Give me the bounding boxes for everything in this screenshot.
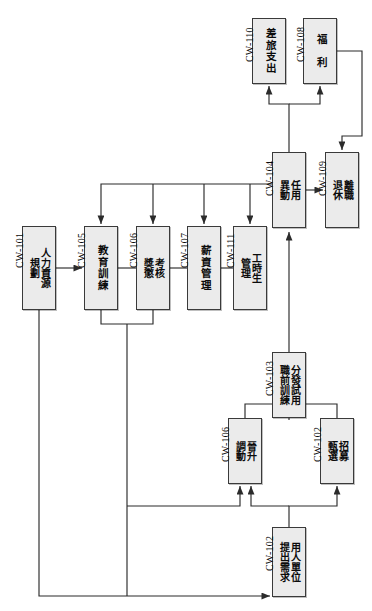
node-id-label: CW-109 [317, 161, 328, 196]
node-label: 考核 獎懲 [142, 258, 165, 278]
process-node-cw-102a[interactable]: 招募 甄選 [320, 418, 354, 484]
edge-102b-106b [251, 486, 289, 506]
process-node-cw-102b[interactable]: 用人單位 提出需求 [272, 527, 306, 597]
node-id-label: CW-103 [264, 361, 275, 396]
node-id-label: CW-108 [295, 27, 306, 62]
node-label: 晉升 調動 [234, 441, 257, 461]
node-label: 薪資管理 [198, 245, 210, 291]
process-node-cw-104[interactable]: 任用 異動 [272, 152, 306, 228]
node-id-label: CW-104 [264, 161, 275, 196]
process-node-cw-106b[interactable]: 晉升 調動 [228, 418, 262, 484]
node-id-label: CW-107 [179, 233, 190, 268]
node-id-label: CW-106 [220, 427, 231, 462]
node-label: 任用 異動 [278, 180, 301, 200]
node-label: 教育訓練 [95, 245, 107, 291]
process-node-cw-103[interactable]: 分發試用 職前訓練 [272, 352, 306, 418]
node-label: 工時生 管理 [239, 253, 262, 283]
process-node-cw-105[interactable]: 教育訓練 [84, 226, 118, 310]
edge-104-110 [269, 86, 289, 152]
node-label: 用人單位 提出需求 [278, 542, 301, 582]
connector-paths [39, 51, 362, 596]
node-id-label: CW-110 [244, 27, 255, 62]
process-node-cw-111[interactable]: 工時生 管理 [233, 226, 267, 310]
node-label: 分發試用 職前訓練 [278, 365, 301, 405]
process-node-cw-109[interactable]: 離職 退休 [325, 152, 359, 228]
process-node-cw-108[interactable]: 福 利 [303, 18, 337, 84]
node-label: 人力資源 規劃 [28, 248, 51, 288]
node-label: 福 利 [314, 34, 326, 69]
node-id-label: CW-102 [312, 427, 323, 462]
process-node-cw-110[interactable]: 差旅支出 [252, 18, 286, 84]
process-node-cw-107[interactable]: 薪資管理 [187, 226, 221, 310]
edge-trunk-105 [101, 184, 289, 224]
edge-104-108 [289, 86, 320, 104]
node-id-label: CW-101 [14, 233, 25, 268]
node-label: 招募 甄選 [326, 441, 349, 461]
node-label: 離職 退休 [331, 180, 354, 200]
node-id-label: CW-105 [76, 233, 87, 268]
node-id-label: CW-106 [128, 233, 139, 268]
edge-102b-102a [289, 486, 337, 527]
edge-bus-106b [127, 486, 240, 506]
edge-bus-105-106a [101, 310, 153, 324]
edge-108-109 [337, 51, 362, 150]
flowchart-canvas: 人力資源 規劃教育訓練考核 獎懲薪資管理工時生 管理任用 異動離職 退休差旅支出… [0, 0, 372, 611]
node-id-label: CW-111 [225, 234, 236, 268]
node-id-label: CW-102 [264, 536, 275, 571]
process-node-cw-106a[interactable]: 考核 獎懲 [136, 226, 170, 310]
node-label: 差旅支出 [263, 28, 275, 74]
process-node-cw-101[interactable]: 人力資源 規劃 [22, 226, 56, 310]
